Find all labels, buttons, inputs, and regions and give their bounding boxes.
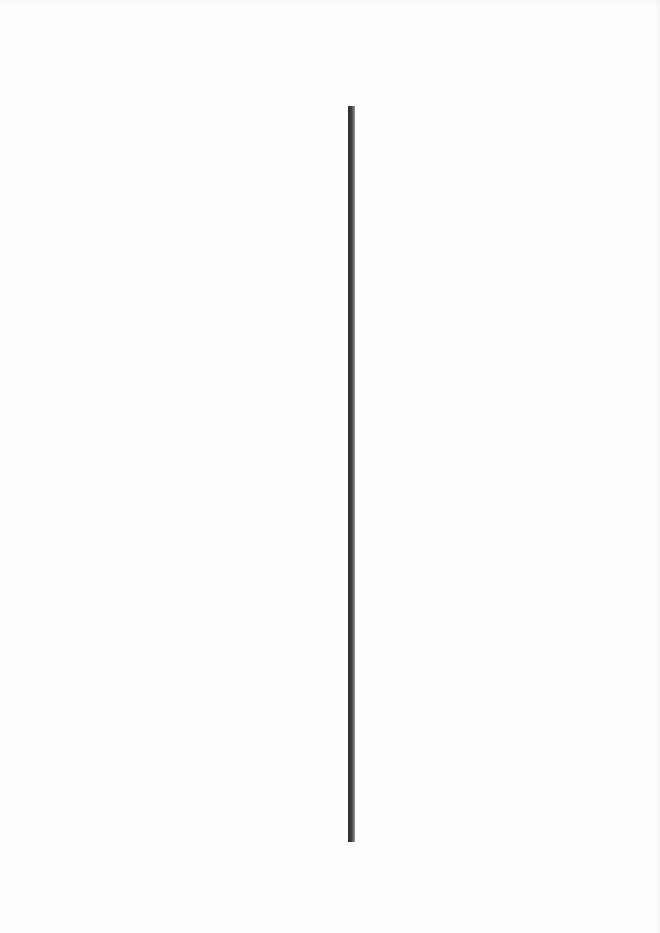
scan-edge-shadow-right (654, 0, 660, 933)
scan-edge-shadow-top (0, 0, 660, 8)
blank-page (0, 0, 660, 933)
vertical-rule (348, 106, 355, 842)
